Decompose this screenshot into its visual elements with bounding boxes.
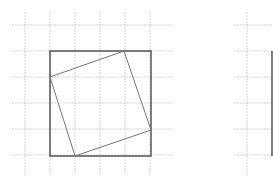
inner-tilted-square [50,51,151,156]
outer-square [50,51,151,156]
diagram-canvas [0,0,273,186]
right-grid [234,12,273,175]
